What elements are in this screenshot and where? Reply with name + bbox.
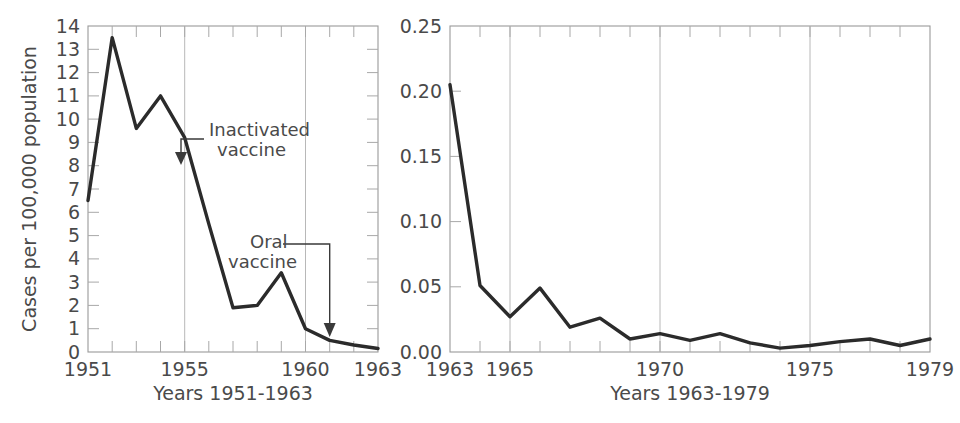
annotation-oral-line1: Oral [250,231,288,252]
left-ytick-7: 7 [68,178,80,200]
left-xtick-1955: 1955 [161,358,209,380]
right-xaxis-title: Years 1963-1979 [609,382,770,404]
right-xtick-1979: 1979 [906,358,954,380]
left-ytick-2: 2 [68,294,80,316]
right-data-line [450,85,930,348]
left-ytick-13: 13 [56,38,80,60]
left-vertical-gridlines [185,26,306,352]
right-vertical-gridlines [510,26,810,352]
left-xtick-1960: 1960 [281,358,329,380]
left-ytick-10: 10 [56,108,80,130]
annotation-inactivated-line1: Inactivated [209,119,310,140]
right-top-ticks [480,26,900,37]
figure-svg: 0 1 2 3 4 5 6 7 8 9 10 11 12 13 14 1951 … [0,0,960,423]
annotation-inactivated-line2: vaccine [217,139,286,160]
left-xaxis-title: Years 1951-1963 [152,382,313,404]
right-x-tick-labels: 1963 1965 1970 1975 1979 [426,358,954,380]
left-ytick-14: 14 [56,15,80,37]
right-ytick-010: 0.10 [400,210,442,232]
annotation-oral-vaccine: Oral vaccine [228,231,336,337]
left-ytick-9: 9 [68,131,80,153]
left-ytick-3: 3 [68,271,80,293]
right-xtick-1963: 1963 [426,358,474,380]
left-ytick-12: 12 [56,61,80,83]
right-ytick-015: 0.15 [400,145,442,167]
annotation-inactivated-vaccine: Inactivated vaccine [175,119,310,165]
left-ytick-5: 5 [68,224,80,246]
right-ytick-025: 0.25 [400,15,442,37]
left-ytick-1: 1 [68,317,80,339]
left-top-ticks [112,26,354,37]
left-y-ticks-right [367,49,378,328]
left-y-tick-labels: 0 1 2 3 4 5 6 7 8 9 10 11 12 13 14 [56,15,80,363]
polio-incidence-figure: 0 1 2 3 4 5 6 7 8 9 10 11 12 13 14 1951 … [0,0,960,423]
right-panel: 0.00 0.05 0.10 0.15 0.20 0.25 1963 1965 … [400,15,954,405]
right-y-tick-labels: 0.00 0.05 0.10 0.15 0.20 0.25 [400,15,442,363]
right-xtick-1965: 1965 [486,358,534,380]
right-ytick-020: 0.20 [400,80,442,102]
left-ytick-8: 8 [68,154,80,176]
left-ytick-6: 6 [68,201,80,223]
right-xtick-1975: 1975 [786,358,834,380]
left-ytick-4: 4 [68,247,80,269]
left-xtick-1951: 1951 [64,358,112,380]
left-data-line [88,38,378,349]
left-xtick-1963: 1963 [354,358,402,380]
left-bottom-ticks [112,341,354,352]
right-ytick-005: 0.05 [400,275,442,297]
left-yaxis-title: Cases per 100,000 population [18,46,40,332]
left-panel: 0 1 2 3 4 5 6 7 8 9 10 11 12 13 14 1951 … [18,15,402,405]
annotation-oral-line2: vaccine [228,251,297,272]
right-xtick-1970: 1970 [636,358,684,380]
left-x-tick-labels: 1951 1955 1960 1963 [64,358,402,380]
left-ytick-11: 11 [56,84,80,106]
